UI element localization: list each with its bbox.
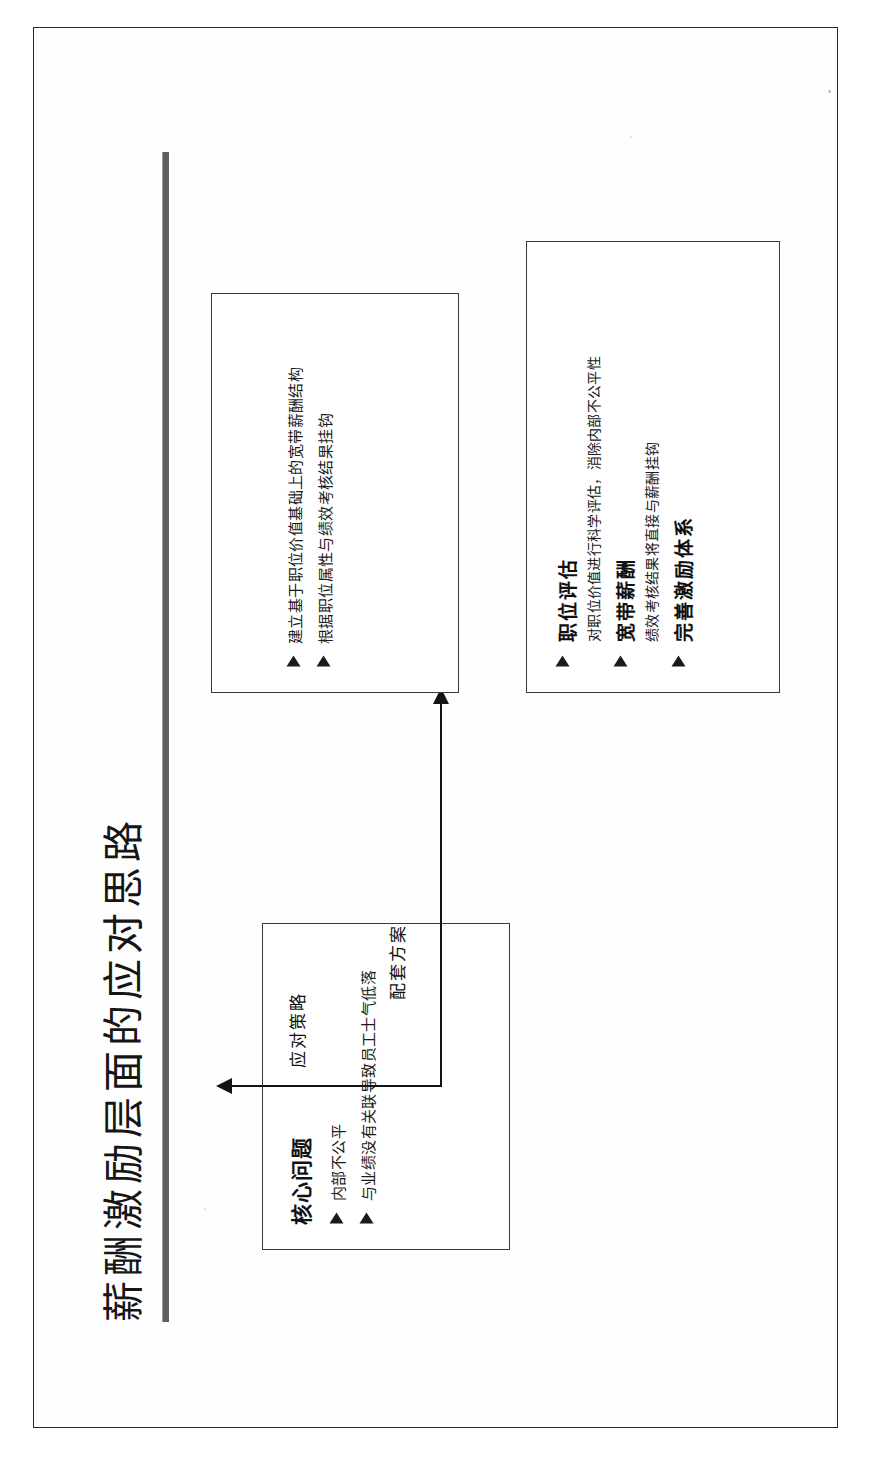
package-item-detail: 绩效考核结果将直接与薪酬挂钩 xyxy=(641,262,661,642)
page-title: 薪酬激励层面的应对思路 xyxy=(90,816,150,1322)
triangle-bullet-icon xyxy=(671,655,685,666)
triangle-bullet-icon xyxy=(329,1212,343,1223)
package-item: 职位评估 对职位价值进行科学评估，消除内部不公平性 xyxy=(553,262,603,670)
strategy-list: 建立基于职位价值基础上的宽带薪酬结构 根据职位属性与绩效考核结果挂钩 xyxy=(286,314,337,670)
scan-speck xyxy=(828,90,831,93)
arrow-head-up-icon xyxy=(216,1078,232,1094)
scanned-page-frame: 薪酬激励层面的应对思路 核心问题 内部不公平 与业绩没有关联导致员工士气低落 xyxy=(33,27,838,1428)
title-divider xyxy=(162,152,169,1322)
package-item-heading: 宽带薪酬 xyxy=(611,262,638,642)
triangle-bullet-icon xyxy=(359,1212,373,1223)
connector-strategy-label: 应对策略 xyxy=(284,992,309,1068)
triangle-bullet-icon xyxy=(316,655,330,666)
package-item-detail: 对职位价值进行科学评估，消除内部不公平性 xyxy=(583,262,603,642)
connector-package-label: 配套方案 xyxy=(384,924,409,1000)
list-item-label: 内部不公平 xyxy=(330,1124,348,1201)
list-item-label: 建立基于职位价值基础上的宽带薪酬结构 xyxy=(287,366,305,643)
package-box: 职位评估 对职位价值进行科学评估，消除内部不公平性 宽带薪酬 绩效考核结果将直接… xyxy=(526,241,780,693)
package-item-heading: 职位评估 xyxy=(553,262,580,642)
list-item: 根据职位属性与绩效考核结果挂钩 xyxy=(316,314,336,670)
core-problem-heading: 核心问题 xyxy=(285,944,315,1225)
connector-strategy-line xyxy=(230,1085,442,1087)
package-item: 宽带薪酬 绩效考核结果将直接与薪酬挂钩 xyxy=(611,262,661,670)
connector-package-line xyxy=(440,695,442,1087)
strategy-box: 建立基于职位价值基础上的宽带薪酬结构 根据职位属性与绩效考核结果挂钩 xyxy=(211,293,459,693)
triangle-bullet-icon xyxy=(613,655,627,666)
slide-canvas: 薪酬激励层面的应对思路 核心问题 内部不公平 与业绩没有关联导致员工士气低落 xyxy=(56,58,816,1398)
triangle-bullet-icon xyxy=(286,655,300,666)
package-item: 完善激励体系 xyxy=(669,262,696,670)
list-item-label: 根据职位属性与绩效考核结果挂钩 xyxy=(317,413,335,644)
list-item: 建立基于职位价值基础上的宽带薪酬结构 xyxy=(286,314,306,670)
triangle-bullet-icon xyxy=(555,655,569,666)
package-item-heading: 完善激励体系 xyxy=(669,262,696,642)
